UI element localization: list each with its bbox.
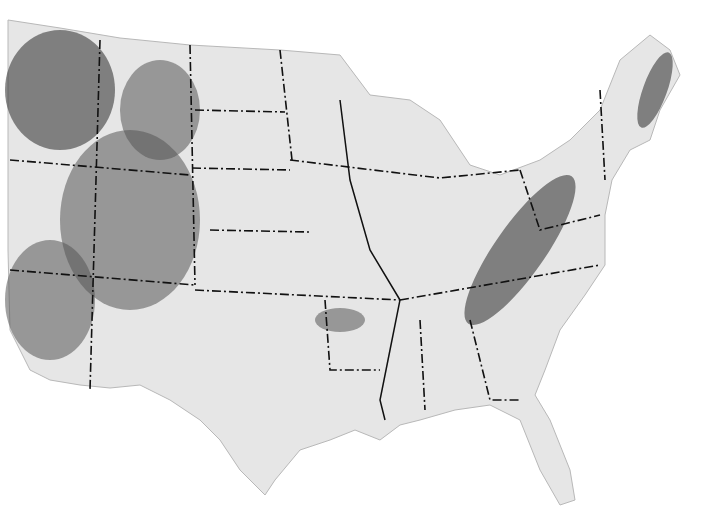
relief-ozarks: [315, 308, 365, 332]
us-relief-map: [0, 0, 705, 532]
